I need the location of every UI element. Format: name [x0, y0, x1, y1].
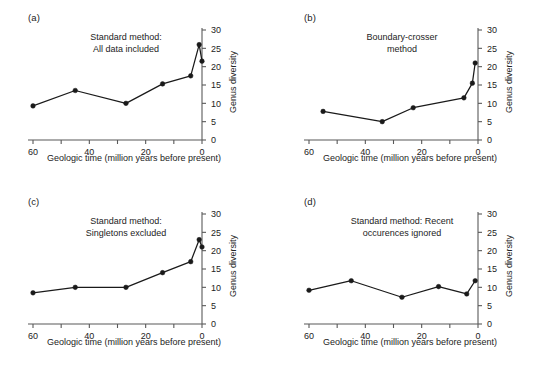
y-axis-label-b: Genus diversity — [504, 0, 514, 34]
x-axis-label-b: Geologic time (million years before pres… — [286, 153, 534, 163]
svg-text:30: 30 — [211, 209, 221, 219]
svg-text:0: 0 — [211, 135, 216, 145]
x-axis-label-a: Geologic time (million years before pres… — [10, 153, 258, 163]
figure-panel-grid: (a) Standard method: All data included 6… — [0, 0, 552, 368]
svg-text:5: 5 — [211, 117, 216, 127]
svg-text:15: 15 — [211, 264, 221, 274]
y-axis-label-c: Genus diversity — [228, 122, 238, 218]
svg-text:10: 10 — [211, 99, 221, 109]
svg-text:5: 5 — [211, 301, 216, 311]
svg-text:10: 10 — [487, 283, 497, 293]
svg-text:0: 0 — [487, 319, 492, 329]
svg-text:15: 15 — [487, 80, 497, 90]
svg-text:30: 30 — [487, 209, 497, 219]
svg-text:15: 15 — [211, 80, 221, 90]
svg-text:20: 20 — [211, 62, 221, 72]
chart-panel-c: (c) Standard method: Singletons excluded… — [0, 184, 276, 368]
svg-text:30: 30 — [487, 25, 497, 35]
chart-panel-d: (d) Standard method: Recent occurences i… — [276, 184, 552, 368]
svg-text:25: 25 — [211, 228, 221, 238]
svg-text:10: 10 — [211, 283, 221, 293]
svg-text:5: 5 — [487, 301, 492, 311]
svg-text:30: 30 — [211, 25, 221, 35]
svg-text:25: 25 — [211, 44, 221, 54]
svg-text:20: 20 — [487, 246, 497, 256]
svg-text:0: 0 — [487, 135, 492, 145]
svg-text:20: 20 — [211, 246, 221, 256]
x-axis-label-d: Geologic time (million years before pres… — [286, 337, 534, 347]
svg-text:5: 5 — [487, 117, 492, 127]
svg-text:25: 25 — [487, 228, 497, 238]
y-axis-label-d: Genus diversity — [504, 122, 514, 218]
svg-text:20: 20 — [487, 62, 497, 72]
svg-text:25: 25 — [487, 44, 497, 54]
svg-text:0: 0 — [211, 319, 216, 329]
x-axis-label-c: Geologic time (million years before pres… — [10, 337, 258, 347]
svg-text:15: 15 — [487, 264, 497, 274]
svg-text:10: 10 — [487, 99, 497, 109]
y-axis-label-a: Genus diversity — [228, 0, 238, 34]
